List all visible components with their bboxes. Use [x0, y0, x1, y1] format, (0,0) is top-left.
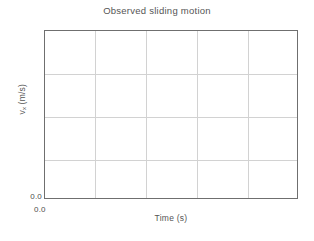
- gridline-vertical: [146, 31, 147, 198]
- y-axis-label-units: (m/s): [17, 84, 27, 107]
- gridline-horizontal: [45, 117, 297, 118]
- gridline-horizontal: [45, 74, 297, 75]
- y-axis-label-symbol: v: [17, 110, 27, 114]
- y-axis-tick-label: 0.0: [30, 192, 42, 201]
- plot-area[interactable]: [44, 30, 298, 199]
- x-axis-tick-label: 0.0: [34, 205, 46, 214]
- x-axis-label: Time (s): [44, 213, 298, 223]
- gridline-vertical: [248, 31, 249, 198]
- figure-canvas: Observed sliding motion vx (m/s) Time (s…: [0, 0, 314, 241]
- page-title: Observed sliding motion: [0, 5, 314, 16]
- gridline-horizontal: [45, 160, 297, 161]
- gridline-vertical: [197, 31, 198, 198]
- y-axis-label-container: vx (m/s): [8, 0, 36, 199]
- y-axis-label: vx (m/s): [17, 84, 28, 114]
- y-axis-label-subscript: x: [20, 107, 27, 110]
- gridline-vertical: [95, 31, 96, 198]
